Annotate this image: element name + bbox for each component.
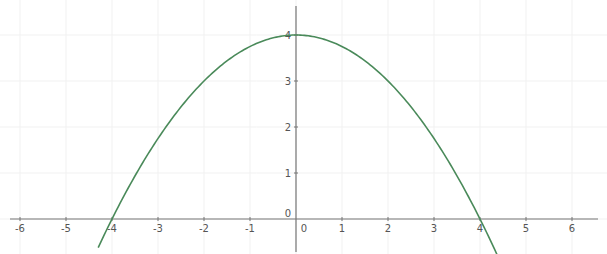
y-tick-label: 2 xyxy=(285,122,291,133)
x-tick-label: 2 xyxy=(385,223,391,234)
x-tick-label: 1 xyxy=(339,223,345,234)
x-tick-label: -6 xyxy=(15,223,25,234)
x-tick-label: 5 xyxy=(523,223,529,234)
grid-lines xyxy=(0,0,607,254)
x-tick-label: -3 xyxy=(153,223,163,234)
y-tick-label: 3 xyxy=(285,76,291,87)
y-tick-label: 0 xyxy=(285,208,291,219)
axes xyxy=(10,6,598,252)
x-tick-label: 3 xyxy=(431,223,437,234)
x-tick-label: -2 xyxy=(199,223,209,234)
x-tick-label: 0 xyxy=(301,223,307,234)
x-tick-label: -5 xyxy=(61,223,71,234)
function-plot: -6-5-4-3-2-10123456 01234 xyxy=(0,0,607,254)
x-tick-label: 6 xyxy=(569,223,575,234)
y-tick-label: 1 xyxy=(285,168,291,179)
x-tick-label: -1 xyxy=(245,223,255,234)
